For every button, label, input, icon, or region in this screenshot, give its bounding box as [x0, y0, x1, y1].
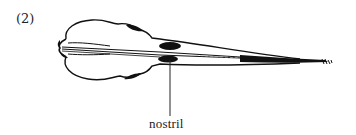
skull-outline — [58, 20, 300, 80]
skull-illustration — [0, 0, 356, 135]
nostril-label: nostril — [149, 116, 184, 132]
